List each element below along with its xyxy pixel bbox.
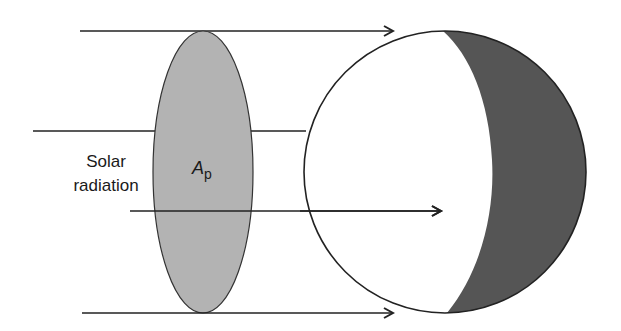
area-symbol: A: [192, 158, 204, 178]
solar-label-line2: radiation: [56, 174, 156, 198]
projected-area-label: Ap: [192, 158, 212, 182]
area-subscript: p: [204, 166, 212, 182]
solar-radiation-label: Solar radiation: [56, 150, 156, 198]
solar-label-line1: Solar: [56, 150, 156, 174]
night-side-shading: [443, 31, 586, 313]
solar-radiation-diagram: Solar radiation Ap: [0, 0, 621, 331]
